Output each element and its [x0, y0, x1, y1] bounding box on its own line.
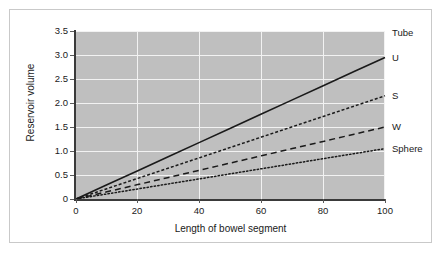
series-line-s [76, 96, 385, 199]
x-tick-label-0: 0 [56, 205, 96, 216]
y-tick-label-wrap-1.5: 1.5 [40, 122, 68, 132]
y-tick-label-wrap-2.0: 2.0 [40, 98, 68, 108]
x-tick-label-20: 20 [117, 205, 157, 216]
y-tick-label-3.5: 3.5 [55, 26, 68, 36]
y-tick-mark-3.0 [70, 55, 74, 56]
series-label-u: U [392, 53, 399, 63]
series-label-tube: Tube [392, 28, 413, 38]
series-line-w [76, 127, 385, 199]
y-tick-mark-1.0 [70, 151, 74, 152]
y-tick-label-1.5: 1.5 [55, 122, 68, 132]
y-tick-mark-1.5 [70, 127, 74, 128]
x-tick-label-40: 40 [179, 205, 219, 216]
x-axis-title: Length of bowel segment [76, 223, 385, 234]
y-tick-label-wrap-3.5: 3.5 [40, 26, 68, 36]
y-tick-label-1.0: 1.0 [55, 146, 68, 156]
figure-container: 3.5 3.0 2.5 2.0 1.5 1.0 0.5 0 0 20 40 60… [0, 0, 442, 253]
x-axis-line [74, 199, 385, 201]
x-tick-mark-80 [323, 199, 324, 203]
y-tick-label-wrap-1.0: 1.0 [40, 146, 68, 156]
series-label-w: W [392, 122, 401, 132]
x-tick-mark-60 [261, 199, 262, 203]
y-tick-mark-0.5 [70, 175, 74, 176]
series-line-sphere [76, 149, 385, 199]
y-axis-line [74, 30, 76, 200]
y-tick-mark-2.0 [70, 103, 74, 104]
y-tick-label-wrap-3.0: 3.0 [40, 50, 68, 60]
y-tick-label-0: 0 [63, 194, 68, 204]
y-tick-label-wrap-0: 0 [40, 194, 68, 204]
y-tick-label-wrap-2.5: 2.5 [40, 74, 68, 84]
y-tick-mark-0 [70, 199, 74, 200]
x-tick-mark-0 [76, 199, 77, 203]
series-label-sphere: Sphere [392, 144, 423, 154]
series-label-s: S [392, 91, 398, 101]
series-line-u [76, 57, 385, 199]
y-tick-label-2.5: 2.5 [55, 74, 68, 84]
x-tick-label-60: 60 [241, 205, 281, 216]
y-tick-label-wrap-0.5: 0.5 [40, 170, 68, 180]
x-tick-label-100: 100 [365, 205, 405, 216]
x-tick-label-80: 80 [303, 205, 343, 216]
y-tick-mark-2.5 [70, 79, 74, 80]
y-tick-mark-3.5 [70, 31, 74, 32]
x-tick-mark-40 [199, 199, 200, 203]
x-tick-mark-100 [385, 199, 386, 203]
y-tick-label-3.0: 3.0 [55, 50, 68, 60]
x-tick-mark-20 [137, 199, 138, 203]
chart-plot-area: 3.5 3.0 2.5 2.0 1.5 1.0 0.5 0 0 20 40 60… [0, 0, 442, 253]
y-tick-label-2.0: 2.0 [55, 98, 68, 108]
y-axis-title: Reservoir volume [25, 33, 36, 173]
y-tick-label-0.5: 0.5 [55, 170, 68, 180]
